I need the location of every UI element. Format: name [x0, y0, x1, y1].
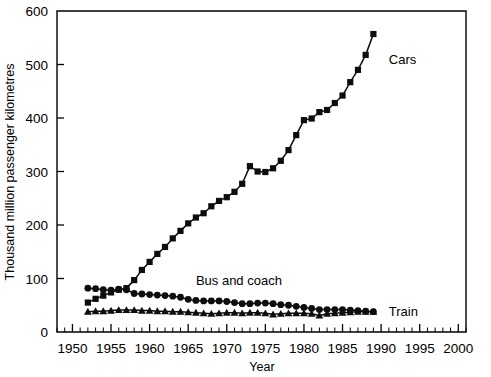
- x-tick-labels: 1950195519601965197019751980198519901995…: [57, 341, 473, 356]
- data-point: [355, 67, 361, 73]
- data-point: [262, 300, 269, 307]
- line-chart: 0100200300400500600 19501955196019651970…: [0, 0, 491, 377]
- x-tick-label: 1970: [212, 341, 242, 356]
- x-tick-label: 1960: [135, 341, 165, 356]
- data-point: [100, 286, 107, 293]
- data-point: [324, 107, 330, 113]
- data-point: [193, 214, 199, 220]
- data-point: [239, 181, 245, 187]
- data-point: [347, 79, 353, 85]
- data-point: [254, 300, 261, 307]
- data-point: [277, 301, 284, 308]
- data-point: [231, 189, 237, 195]
- data-point: [370, 31, 376, 37]
- series-label-bus-and-coach: Bus and coach: [196, 273, 282, 288]
- x-tick-label: 1950: [57, 341, 87, 356]
- data-point: [92, 285, 99, 292]
- y-tick-label: 200: [25, 218, 48, 233]
- data-point: [247, 163, 253, 169]
- y-axis-title: Thousand million passenger kilometres: [3, 64, 17, 281]
- data-point: [201, 210, 207, 216]
- data-point: [216, 298, 223, 305]
- data-point: [208, 203, 214, 209]
- data-point: [131, 290, 138, 297]
- x-axis-title: Year: [249, 360, 274, 374]
- x-tick-label: 2000: [443, 341, 473, 356]
- data-point: [332, 100, 338, 106]
- y-tick-label: 500: [25, 58, 48, 73]
- data-point: [131, 277, 137, 283]
- data-point: [239, 300, 246, 307]
- data-point: [162, 244, 168, 250]
- data-point: [100, 293, 106, 299]
- x-tick-label: 1975: [250, 341, 280, 356]
- y-tick-label: 0: [40, 325, 48, 340]
- data-point: [339, 92, 345, 98]
- data-point: [162, 292, 169, 299]
- data-point: [185, 220, 191, 226]
- data-point: [139, 267, 145, 273]
- data-point: [293, 132, 299, 138]
- data-point: [285, 147, 291, 153]
- data-point: [231, 299, 238, 306]
- data-point: [146, 291, 153, 298]
- chart-background: [0, 0, 491, 377]
- data-point: [316, 109, 322, 115]
- x-tick-label: 1980: [289, 341, 319, 356]
- data-point: [154, 251, 160, 257]
- data-point: [208, 298, 215, 305]
- data-point: [270, 165, 276, 171]
- data-point: [185, 296, 192, 303]
- data-point: [154, 292, 161, 299]
- data-point: [363, 52, 369, 58]
- data-point: [85, 299, 91, 305]
- data-point: [293, 303, 300, 310]
- y-tick-label: 100: [25, 272, 48, 287]
- data-point: [223, 298, 230, 305]
- data-point: [169, 293, 176, 300]
- chart-container: 0100200300400500600 19501955196019651970…: [0, 0, 491, 377]
- data-point: [170, 235, 176, 241]
- data-point: [84, 285, 91, 292]
- y-tick-label: 300: [25, 165, 48, 180]
- data-point: [193, 297, 200, 304]
- data-point: [255, 168, 261, 174]
- data-point: [278, 158, 284, 164]
- data-point: [309, 115, 315, 121]
- data-point: [115, 286, 122, 293]
- x-tick-label: 1955: [96, 341, 126, 356]
- x-tick-label: 1965: [173, 341, 203, 356]
- data-point: [92, 296, 98, 302]
- data-point: [224, 194, 230, 200]
- data-point: [216, 198, 222, 204]
- series-label-train: Train: [389, 304, 418, 319]
- data-point: [177, 294, 184, 301]
- data-point: [123, 286, 130, 293]
- data-point: [262, 169, 268, 175]
- y-tick-label: 400: [25, 111, 48, 126]
- x-tick-label: 1985: [328, 341, 358, 356]
- y-tick-label: 600: [25, 4, 48, 19]
- series-label-cars: Cars: [389, 52, 417, 67]
- data-point: [147, 259, 153, 265]
- x-tick-label: 1990: [366, 341, 396, 356]
- data-point: [108, 287, 115, 294]
- data-point: [301, 117, 307, 123]
- x-tick-label: 1995: [405, 341, 435, 356]
- data-point: [200, 298, 207, 305]
- data-point: [270, 300, 277, 307]
- data-point: [138, 291, 145, 298]
- data-point: [247, 300, 254, 307]
- data-point: [285, 302, 292, 309]
- data-point: [177, 228, 183, 234]
